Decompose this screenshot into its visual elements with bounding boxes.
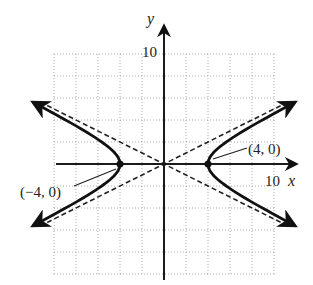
- hyperbola-graph: y 10 x 10 (4, 0) (−4, 0): [0, 0, 313, 285]
- x-tick-label: 10: [265, 173, 280, 189]
- left-vertex-point: [117, 161, 124, 168]
- right-vertex-label: (4, 0): [248, 141, 281, 158]
- right-vertex-point: [205, 161, 212, 168]
- y-tick-label: 10: [142, 44, 157, 60]
- left-vertex-label: (−4, 0): [20, 184, 61, 201]
- y-axis-label: y: [145, 10, 155, 28]
- x-axis-label: x: [287, 172, 295, 189]
- left-vertex-leader: [74, 169, 116, 186]
